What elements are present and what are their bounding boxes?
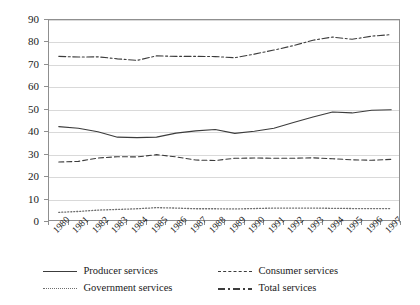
line-chart: 0102030405060708090 19801981198219831984…: [0, 0, 420, 305]
legend-item-total-services: Total services: [218, 282, 378, 293]
y-axis-tick-label: 30: [28, 148, 39, 159]
series-line-total-services: [59, 35, 391, 61]
legend-label: Producer services: [84, 265, 158, 276]
legend-swatch-dashed-icon: [218, 267, 252, 275]
y-axis-tick-label: 60: [28, 81, 39, 92]
legend-item-consumer-services: Consumer services: [218, 265, 378, 276]
y-axis-tick-label: 40: [28, 126, 39, 137]
series-layer: [49, 20, 401, 222]
series-line-government-services: [59, 208, 391, 213]
legend-row-1: Producer services Consumer services: [0, 262, 420, 279]
series-line-consumer-services: [59, 155, 391, 162]
legend-item-government-services: Government services: [43, 282, 218, 293]
legend-label: Government services: [84, 282, 173, 293]
chart-legend: Producer services Consumer services Gove…: [0, 262, 420, 302]
y-axis-tick-label: 0: [34, 216, 40, 227]
y-axis-tick-label: 90: [28, 14, 39, 25]
y-axis-tick-label: 70: [28, 58, 39, 69]
x-axis-tick-mark: [48, 221, 49, 225]
series-line-producer-services: [59, 110, 391, 138]
y-axis: 0102030405060708090: [0, 0, 46, 240]
legend-swatch-solid-icon: [43, 267, 77, 275]
plot-area: [48, 19, 400, 221]
legend-swatch-dashdot-icon: [218, 284, 252, 292]
legend-label: Consumer services: [259, 265, 339, 276]
y-axis-tick-label: 80: [28, 36, 39, 47]
y-axis-tick-label: 10: [28, 193, 39, 204]
legend-item-producer-services: Producer services: [43, 265, 218, 276]
legend-label: Total services: [259, 282, 317, 293]
y-axis-tick-label: 50: [28, 103, 39, 114]
legend-swatch-dotted-icon: [43, 284, 77, 292]
legend-row-2: Government services Total services: [0, 279, 420, 296]
y-axis-tick-label: 20: [28, 171, 39, 182]
